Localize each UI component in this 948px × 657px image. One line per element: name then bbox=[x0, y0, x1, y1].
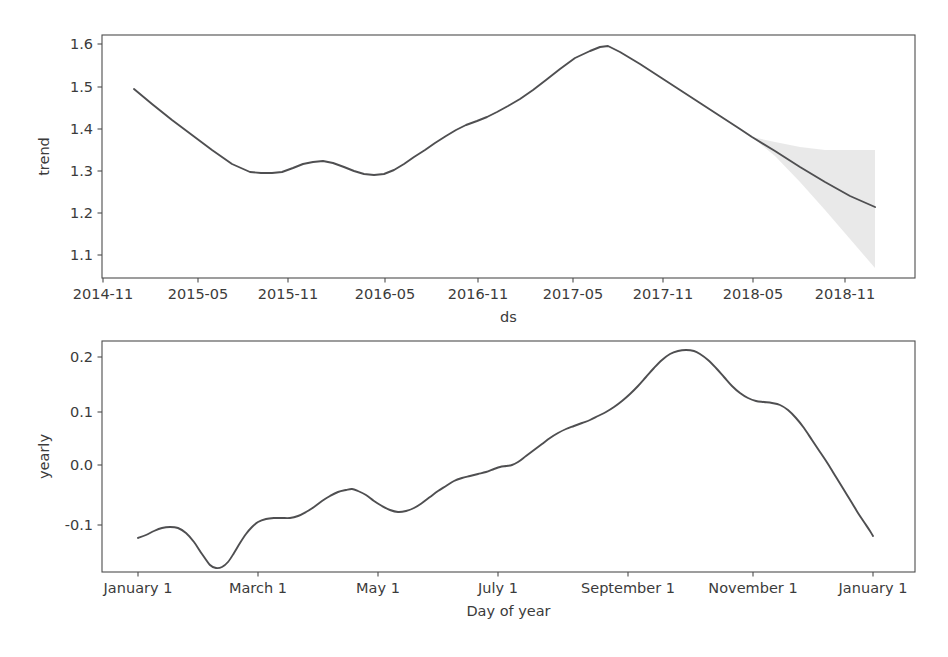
yearly-panel-xticklabel-3: July 1 bbox=[477, 580, 518, 596]
trend-panel-xticklabel-6: 2017-11 bbox=[633, 286, 694, 302]
yearly-panel-yticklabel-0: -0.1 bbox=[65, 517, 93, 533]
trend-panel-yticklabel-3: 1.4 bbox=[70, 121, 93, 137]
trend-panel-xticklabel-3: 2016-05 bbox=[355, 286, 416, 302]
yearly-panel-xticklabel-2: May 1 bbox=[356, 580, 400, 596]
yearly-panel-xticklabel-5: November 1 bbox=[708, 580, 797, 596]
yearly-panel-yticklabel-3: 0.2 bbox=[70, 349, 93, 365]
trend-panel-xticklabel-8: 2018-11 bbox=[815, 286, 876, 302]
yearly-panel-xticklabel-1: March 1 bbox=[229, 580, 287, 596]
yearly-panel-xticklabel-6: January 1 bbox=[838, 580, 908, 596]
trend-panel-yticklabel-2: 1.3 bbox=[70, 163, 93, 179]
trend-panel-xticklabel-5: 2017-05 bbox=[543, 286, 604, 302]
trend-panel-yticklabel-5: 1.6 bbox=[70, 36, 93, 52]
yearly-panel-xticklabel-0: January 1 bbox=[103, 580, 173, 596]
yearly-panel-xaxis-label: Day of year bbox=[466, 603, 550, 619]
trend-panel-xticklabel-2: 2015-11 bbox=[258, 286, 319, 302]
figure-canvas: 2014-112015-052015-112016-052016-112017-… bbox=[0, 0, 948, 657]
yearly-panel-yticklabel-1: 0.0 bbox=[70, 457, 93, 473]
trend-panel-yticklabel-1: 1.2 bbox=[70, 205, 93, 221]
trend-panel-yticklabel-4: 1.5 bbox=[70, 79, 93, 95]
yearly-panel-xticklabel-4: September 1 bbox=[581, 580, 675, 596]
yearly-panel-yticklabel-2: 0.1 bbox=[70, 404, 93, 420]
trend-panel-yaxis-label: trend bbox=[36, 137, 52, 176]
prophet-components-figure: 2014-112015-052015-112016-052016-112017-… bbox=[0, 0, 948, 657]
yearly-panel-yaxis-label: yearly bbox=[36, 434, 52, 479]
trend-panel-xaxis-label: ds bbox=[500, 309, 517, 325]
trend-panel-yticklabel-0: 1.1 bbox=[70, 247, 93, 263]
trend-panel-xticklabel-7: 2018-05 bbox=[723, 286, 784, 302]
figure-background bbox=[0, 0, 948, 657]
trend-panel-xticklabel-0: 2014-11 bbox=[73, 286, 134, 302]
trend-panel-xticklabel-4: 2016-11 bbox=[448, 286, 509, 302]
trend-panel-xticklabel-1: 2015-05 bbox=[168, 286, 229, 302]
